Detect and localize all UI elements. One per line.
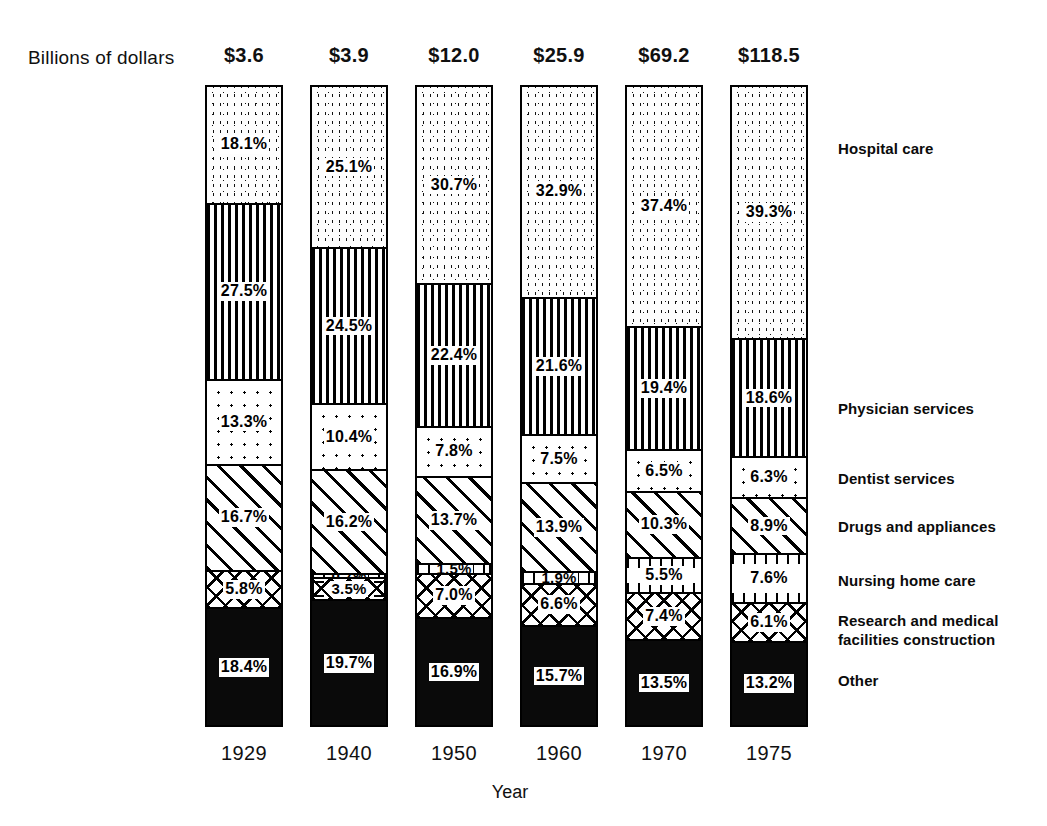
segment-leader-bracket [584,571,596,583]
segment-leader-bracket [312,581,324,597]
bar-segment[interactable]: 3.5% [312,577,386,599]
bar-segment[interactable]: 6.6% [522,583,596,625]
bar-segment[interactable]: 18.4% [207,607,281,725]
bar-segment[interactable]: 16.7% [207,464,281,571]
segment-value-label: 27.5% [219,282,269,301]
x-axis-tick-label: 1975 [717,742,822,765]
legend-item[interactable]: Hospital care [838,140,934,159]
segment-value-label: 8.9% [748,517,789,536]
segment-value-label: 25.1% [324,158,374,177]
bar-segment[interactable]: 0.7% [312,573,386,577]
bar-segment[interactable]: 15.7% [522,625,596,725]
column-total-label: $3.6 [192,44,297,67]
bar-segment[interactable]: 6.1% [732,602,806,641]
bar-segment[interactable]: 13.9% [522,482,596,571]
bar-segment[interactable]: 27.5% [207,203,281,379]
segment-value-label: 1.9% [541,571,578,583]
segment-leader-bracket [312,573,324,577]
segment-value-label: 6.5% [643,462,684,481]
bar-segment[interactable]: 13.5% [627,639,701,725]
segment-value-label: 10.3% [639,515,689,534]
bar-segment[interactable]: 32.9% [522,87,596,297]
bar-segment[interactable]: 7.8% [417,426,491,476]
legend-item[interactable]: Nursing home care [838,572,976,591]
segment-value-label: 5.5% [643,566,684,585]
stacked-bar-chart-plot: 18.1%27.5%13.3%16.7%5.8%18.4%25.1%24.5%1… [205,85,815,727]
segment-value-label: 15.7% [534,667,584,686]
bar-column[interactable]: 25.1%24.5%10.4%16.2%0.7%3.5%19.7% [310,85,388,727]
column-total-label: $69.2 [612,44,717,67]
x-axis-tick-label: 1929 [192,742,297,765]
segment-value-label: 3.5% [331,581,368,597]
bar-segment[interactable]: 37.4% [627,87,701,326]
segment-leader-bracket [479,563,491,573]
segment-value-label: 18.1% [219,135,269,154]
segment-value-label: 39.3% [744,203,794,222]
segment-value-label: 22.4% [429,346,479,365]
segment-value-label: 13.5% [639,674,689,693]
x-axis-tick-label: 1960 [507,742,612,765]
x-axis-tick-label: 1950 [402,742,507,765]
bar-segment[interactable]: 1.5% [417,563,491,573]
bar-segment[interactable]: 18.1% [207,87,281,203]
segment-value-label: 16.9% [429,663,479,682]
legend-item[interactable]: Research and medical facilities construc… [838,612,998,650]
bar-segment[interactable]: 18.6% [732,338,806,457]
bar-segment[interactable]: 19.4% [627,326,701,450]
legend-item[interactable]: Physician services [838,400,974,419]
segment-value-label: 7.8% [433,442,474,461]
legend-item[interactable]: Drugs and appliances [838,518,996,537]
bar-segment[interactable]: 1.9% [522,571,596,583]
segment-value-label: 16.7% [219,508,269,527]
segment-value-label: 18.4% [219,658,269,677]
bar-segment[interactable]: 16.9% [417,617,491,725]
bar-segment[interactable]: 30.7% [417,87,491,283]
segment-value-label: 21.6% [534,357,584,376]
bar-segment[interactable]: 5.8% [207,570,281,607]
bar-segment[interactable]: 21.6% [522,297,596,435]
segment-value-label: 6.6% [538,595,579,614]
y-axis-title: Billions of dollars [28,47,174,69]
bar-segment[interactable]: 7.0% [417,573,491,618]
bar-column[interactable]: 30.7%22.4%7.8%13.7%1.5%7.0%16.9% [415,85,493,727]
segment-value-label: 7.4% [643,607,684,626]
x-axis-tick-label: 1970 [612,742,717,765]
bar-segment[interactable]: 7.5% [522,434,596,482]
segment-value-label: 16.2% [324,513,374,532]
segment-leader-bracket [374,581,386,597]
bar-segment[interactable]: 13.3% [207,379,281,464]
bar-segment[interactable]: 24.5% [312,247,386,403]
bar-segment[interactable]: 5.5% [627,557,701,592]
legend-item[interactable]: Other [838,672,879,691]
x-axis-title: Year [205,782,815,803]
bar-column[interactable]: 32.9%21.6%7.5%13.9%1.9%6.6%15.7% [520,85,598,727]
bar-column[interactable]: 37.4%19.4%6.5%10.3%5.5%7.4%13.5% [625,85,703,727]
bar-segment[interactable]: 22.4% [417,283,491,426]
bar-segment[interactable]: 6.3% [732,456,806,496]
bar-segment[interactable]: 19.7% [312,599,386,725]
segment-value-label: 13.3% [219,413,269,432]
bar-segment[interactable]: 7.6% [732,553,806,601]
column-total-label: $25.9 [507,44,612,67]
bar-segment[interactable]: 25.1% [312,87,386,247]
x-axis-tick-label: 1940 [297,742,402,765]
bar-column[interactable]: 18.1%27.5%13.3%16.7%5.8%18.4% [205,85,283,727]
segment-value-label: 5.8% [223,580,264,599]
segment-value-label: 30.7% [429,176,479,195]
bar-segment[interactable]: 10.4% [312,403,386,469]
bar-segment[interactable]: 13.2% [732,641,806,725]
segment-value-label: 7.0% [433,586,474,605]
segment-value-label: 24.5% [324,317,374,336]
segment-leader-bracket [522,571,534,583]
bar-segment[interactable]: 6.5% [627,449,701,490]
bar-segment[interactable]: 39.3% [732,87,806,338]
column-total-label: $3.9 [297,44,402,67]
bar-segment[interactable]: 16.2% [312,469,386,572]
bar-column[interactable]: 39.3%18.6%6.3%8.9%7.6%6.1%13.2% [730,85,808,727]
bar-segment[interactable]: 13.7% [417,476,491,563]
segment-value-label: 13.2% [744,674,794,693]
bar-segment[interactable]: 8.9% [732,497,806,554]
legend-item[interactable]: Dentist services [838,470,955,489]
bar-segment[interactable]: 7.4% [627,592,701,639]
bar-segment[interactable]: 10.3% [627,491,701,557]
